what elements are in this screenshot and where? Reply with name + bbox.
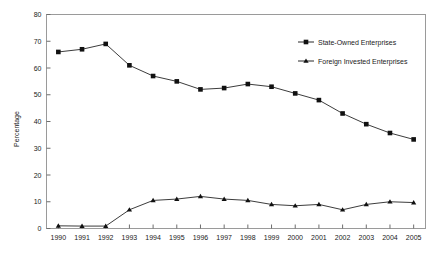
data-point-square (222, 86, 227, 91)
x-tick-label: 2000 (287, 234, 303, 241)
y-tick-label: 10 (34, 198, 42, 205)
y-tick-label: 30 (34, 145, 42, 152)
data-point-square (411, 137, 416, 142)
data-point-square (151, 74, 156, 79)
x-tick-label: 1999 (264, 234, 280, 241)
data-point-square (56, 50, 61, 55)
chart-container: 01020304050607080 1990199119921993199419… (0, 0, 445, 257)
y-tick-label: 60 (34, 65, 42, 72)
x-tick-label: 1992 (98, 234, 114, 241)
y-tick-label: 70 (34, 38, 42, 45)
y-tick-label: 40 (34, 118, 42, 125)
data-point-square (340, 111, 345, 116)
data-point-square (198, 87, 203, 92)
x-tick-label: 1996 (193, 234, 209, 241)
data-point-square (269, 84, 274, 89)
x-tick-label: 1995 (169, 234, 185, 241)
legend-label: State-Owned Enterprises (318, 39, 397, 47)
y-tick-label: 50 (34, 91, 42, 98)
x-tick-label: 1991 (74, 234, 90, 241)
x-tick-label: 1998 (240, 234, 256, 241)
x-tick-label: 2003 (358, 234, 374, 241)
x-tick-label: 1994 (145, 234, 161, 241)
y-tick-label: 20 (34, 172, 42, 179)
y-axis-title: Percentage (13, 111, 21, 147)
data-point-square (317, 98, 322, 103)
data-point-square (364, 122, 369, 127)
y-tick-label: 0 (38, 225, 42, 232)
x-tick-label: 1997 (216, 234, 232, 241)
x-tick-label: 1993 (122, 234, 138, 241)
data-point-square (293, 91, 298, 96)
data-point-square (246, 82, 251, 87)
x-tick-label: 2002 (335, 234, 351, 241)
data-point-square (388, 131, 393, 136)
legend-label: Foreign Invested Enterprises (318, 58, 408, 66)
line-chart: 01020304050607080 1990199119921993199419… (0, 0, 445, 257)
data-point-square (304, 40, 309, 45)
y-tick-label: 80 (34, 11, 42, 18)
data-point-square (80, 47, 85, 52)
x-tick-label: 2005 (406, 234, 422, 241)
data-point-square (103, 42, 108, 47)
data-point-square (127, 63, 132, 68)
x-tick-label: 2004 (382, 234, 398, 241)
data-point-square (174, 79, 179, 84)
x-tick-label: 1990 (51, 234, 67, 241)
x-tick-label: 2001 (311, 234, 327, 241)
